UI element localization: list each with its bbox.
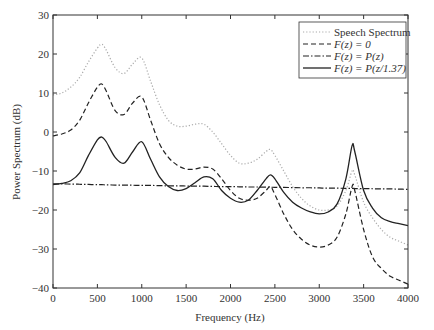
y-tick-label: 20 bbox=[38, 48, 50, 60]
x-axis-label: Frequency (Hz) bbox=[195, 311, 265, 324]
x-tick-label: 2500 bbox=[264, 292, 287, 304]
x-tick-label: 4000 bbox=[397, 292, 420, 304]
x-tick-label: 1000 bbox=[131, 292, 154, 304]
power-spectrum-chart: 05001000150020002500300035004000−40−30−2… bbox=[0, 0, 434, 330]
x-tick-label: 0 bbox=[50, 292, 56, 304]
x-tick-label: 3500 bbox=[353, 292, 376, 304]
y-tick-label: −20 bbox=[32, 204, 50, 216]
legend-label-fp137: F(z) = P(z/1.37) bbox=[333, 62, 406, 75]
legend: Speech Spectrum F(z) = 0 F(z) = P(z) F(z… bbox=[299, 22, 411, 78]
y-tick-label: 10 bbox=[38, 87, 50, 99]
y-tick-label: 30 bbox=[38, 9, 50, 21]
y-tick-label: −40 bbox=[32, 282, 50, 294]
x-tick-label: 2000 bbox=[220, 292, 243, 304]
plot-lines bbox=[53, 44, 408, 284]
series-line-1 bbox=[53, 84, 408, 284]
legend-label-speech: Speech Spectrum bbox=[334, 26, 411, 38]
series-line-2 bbox=[53, 184, 408, 189]
x-tick-label: 1500 bbox=[175, 292, 198, 304]
series-line-3 bbox=[53, 137, 408, 226]
x-tick-label: 500 bbox=[89, 292, 106, 304]
chart-container: 05001000150020002500300035004000−40−30−2… bbox=[0, 0, 434, 330]
x-tick-label: 3000 bbox=[308, 292, 331, 304]
y-axis-label: Power Spectrum (dB) bbox=[10, 104, 23, 200]
y-tick-label: −10 bbox=[32, 165, 50, 177]
y-tick-label: 0 bbox=[44, 126, 50, 138]
y-tick-label: −30 bbox=[32, 243, 50, 255]
